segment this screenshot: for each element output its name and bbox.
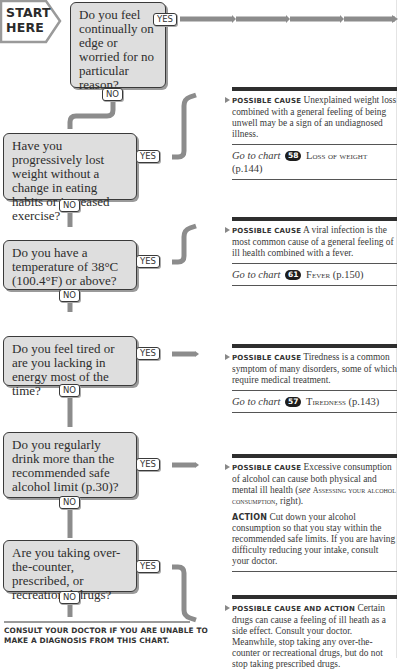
no-label: NO [59, 289, 80, 302]
action-heading: Action [232, 513, 267, 522]
goto-chart-link[interactable]: Go to chart 61 Fever (p.150) [232, 268, 397, 281]
outcome-panel-drugs: Possible cause and action Certain drugs … [232, 595, 397, 670]
no-label: NO [59, 199, 80, 212]
panel-top-rule [232, 87, 397, 91]
yes-label: YES [136, 347, 160, 360]
yes-label: YES [136, 458, 160, 471]
divider [232, 571, 397, 572]
possible-cause-paragraph: Possible cause Tiredness is a common sym… [232, 352, 397, 386]
possible-cause-paragraph: Possible cause A viral infection is the … [232, 225, 397, 259]
yes-label: YES [136, 560, 160, 573]
possible-cause-heading: Possible cause [232, 97, 301, 105]
yes-label: YES [136, 255, 160, 268]
chart-number-badge: 61 [285, 270, 301, 280]
possible-cause-heading: Possible cause and action [232, 605, 355, 613]
question-box-3: Do you have a temperature of 38°C (100.4… [3, 240, 137, 290]
no-label: NO [59, 591, 80, 604]
panel-top-rule [232, 344, 397, 348]
question-box-1: Do you feel continually on edge or worri… [70, 2, 166, 88]
question-box-2: Have you progressively lost weight witho… [3, 133, 137, 200]
start-here-marker: START HERE [0, 0, 58, 40]
question-box-4: Do you feel tired or are you lacking in … [3, 336, 137, 386]
possible-cause-and-action-paragraph: Possible cause and action Certain drugs … [232, 603, 397, 670]
no-label: NO [59, 496, 80, 509]
no-label: NO [59, 384, 80, 397]
question-box-6: Are you taking over-the-counter, prescri… [3, 540, 137, 592]
outcome-panel-fever: Possible cause A viral infection is the … [232, 217, 397, 290]
yes-label: YES [136, 150, 160, 163]
divider [232, 179, 397, 180]
possible-cause-paragraph: Possible cause Excessive consumption of … [232, 462, 397, 507]
goto-chart-link[interactable]: Go to chart 57 Tiredness (p.143) [232, 395, 397, 408]
start-here-label: START HERE [6, 5, 51, 35]
outcome-panel-alcohol: Possible cause Excessive consumption of … [232, 454, 397, 576]
possible-cause-paragraph: Possible cause Unexplained weight loss c… [232, 95, 397, 140]
question-text: Do you have a temperature of 38°C (100.4… [12, 245, 118, 288]
no-label: NO [102, 88, 123, 101]
pointer-icon [225, 354, 230, 360]
chart-number-badge: 57 [285, 397, 301, 407]
yes-label: YES [153, 13, 177, 26]
pointer-icon [225, 464, 230, 470]
question-text: Do you feel continually on edge or worri… [79, 7, 154, 92]
pointer-icon [225, 97, 230, 103]
question-text: Do you regularly drink more than the rec… [12, 437, 119, 494]
possible-cause-heading: Possible cause [232, 354, 301, 362]
divider [232, 412, 397, 413]
possible-cause-heading: Possible cause [232, 464, 301, 472]
footer-rule [4, 621, 190, 623]
possible-cause-heading: Possible cause [232, 227, 301, 235]
outcome-panel-tiredness: Possible cause Tiredness is a common sym… [232, 344, 397, 417]
panel-top-rule [232, 454, 397, 458]
chart-number-badge: 58 [285, 151, 301, 161]
divider [232, 390, 397, 391]
divider [232, 285, 397, 286]
panel-top-rule [232, 595, 397, 599]
outcome-panel-weight: Possible cause Unexplained weight loss c… [232, 87, 397, 184]
question-box-5: Do you regularly drink more than the rec… [3, 432, 137, 498]
pointer-icon [225, 605, 230, 611]
pointer-icon [225, 227, 230, 233]
goto-chart-link[interactable]: Go to chart 58 Loss of weight (p.144) [232, 149, 397, 175]
consult-doctor-note: Consult your doctor if you are unable to… [4, 626, 224, 646]
panel-top-rule [232, 217, 397, 221]
divider [232, 263, 397, 264]
action-paragraph: Action Cut down your alcohol consumption… [232, 512, 397, 567]
divider [232, 144, 397, 145]
